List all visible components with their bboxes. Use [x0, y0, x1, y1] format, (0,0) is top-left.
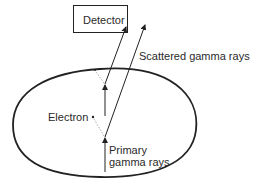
electron-dot [92, 116, 94, 118]
detector-label: Detector [83, 14, 125, 26]
scattered-ray-escape [105, 25, 145, 137]
scattered-ray-detected [105, 27, 126, 84]
primary-label-line1: Primary [109, 144, 170, 156]
electron-label: Electron [48, 111, 88, 123]
electron-dot-2 [94, 69, 96, 71]
primary-label-line2: gamma rays [109, 156, 170, 168]
electron-recoil-path [94, 119, 104, 136]
electron-recoil-path-2 [96, 72, 104, 83]
scattered-gamma-rays-label: Scattered gamma rays [139, 50, 250, 62]
primary-gamma-rays-label: Primary gamma rays [109, 144, 170, 168]
